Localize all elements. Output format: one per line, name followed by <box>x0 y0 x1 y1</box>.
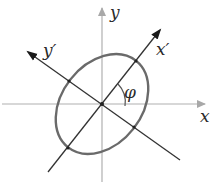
intersection-point <box>132 125 135 128</box>
angle-label: φ <box>124 82 136 102</box>
y-prime-label: y′ <box>42 40 57 60</box>
intersection-point <box>134 59 137 62</box>
ellipse-diagram: y x x′ y′ φ <box>0 0 216 192</box>
x-axis-label: x <box>200 106 210 126</box>
center-point <box>100 102 104 106</box>
x-prime-label: x′ <box>156 39 170 59</box>
y-prime-axis <box>28 52 180 160</box>
intersection-point <box>66 146 69 149</box>
intersection-point <box>67 79 70 82</box>
y-axis-label: y <box>109 2 120 22</box>
